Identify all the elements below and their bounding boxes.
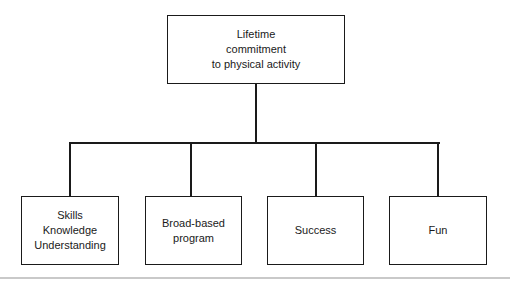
- connector-drop-fun: [437, 142, 439, 196]
- connector-root-stem: [255, 84, 257, 142]
- node-skills-label: Skills Knowledge Understanding: [31, 208, 109, 253]
- diagram-canvas: Lifetime commitment to physical activity…: [0, 0, 510, 285]
- node-skills: Skills Knowledge Understanding: [21, 196, 119, 265]
- baseline-rule: [0, 277, 510, 279]
- connector-drop-success: [315, 142, 317, 196]
- node-broad-based-program: Broad-based program: [145, 196, 242, 265]
- node-broad-based-program-label: Broad-based program: [159, 216, 228, 246]
- node-success-label: Success: [292, 223, 340, 238]
- connector-horizontal-bus: [69, 142, 440, 144]
- root-node: Lifetime commitment to physical activity: [167, 15, 345, 84]
- node-fun-label: Fun: [426, 223, 451, 238]
- connector-drop-skills: [69, 142, 71, 196]
- node-success: Success: [267, 196, 364, 265]
- connector-drop-broad-based-program: [190, 142, 192, 196]
- root-node-label: Lifetime commitment to physical activity: [209, 27, 304, 72]
- node-fun: Fun: [389, 196, 487, 265]
